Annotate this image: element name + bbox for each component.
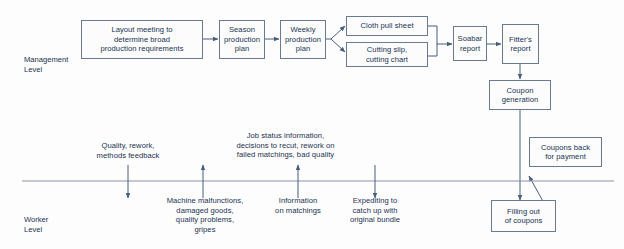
node-weekly-production-plan[interactable]: Weekly production plan bbox=[280, 20, 326, 59]
node-cutting-slip-chart-label: Cutting slip, cutting chart bbox=[366, 45, 408, 64]
node-filling-out-of-coupons[interactable]: Filling out of coupons bbox=[491, 200, 556, 232]
flow-label-quality-rework: Quality, rework, methods feedback bbox=[68, 141, 188, 160]
connector-cutting-slip-merge bbox=[428, 44, 437, 56]
flow-label-job-status-information: Job status information, decisions to rec… bbox=[198, 131, 373, 160]
node-cloth-pull-sheet-label: Cloth pull sheet bbox=[360, 21, 413, 30]
node-coupon-generation-label: Coupon generation bbox=[502, 86, 538, 105]
node-soabar-report[interactable]: Soabar report bbox=[453, 26, 487, 61]
node-weekly-production-plan-label: Weekly production plan bbox=[285, 25, 321, 53]
connector-branch-to-cutting-slip bbox=[331, 39, 345, 52]
node-coupons-back-for-payment-label: Coupons back for payment bbox=[541, 143, 590, 162]
flow-label-expediting: Expediting to catch up with original bun… bbox=[333, 196, 417, 225]
node-layout-meeting-label: Layout meeting to determine broad produc… bbox=[100, 25, 183, 53]
node-fitters-report[interactable]: Fitter's report bbox=[502, 24, 539, 64]
node-filling-out-of-coupons-label: Filling out of coupons bbox=[505, 207, 543, 226]
connector-cloth-pull-merge bbox=[428, 26, 437, 44]
node-coupon-generation[interactable]: Coupon generation bbox=[489, 80, 551, 110]
node-soabar-report-label: Soabar report bbox=[458, 34, 483, 53]
node-layout-meeting[interactable]: Layout meeting to determine broad produc… bbox=[81, 20, 203, 59]
node-cutting-slip-chart[interactable]: Cutting slip, cutting chart bbox=[346, 42, 428, 67]
node-season-production-plan[interactable]: Season production plan bbox=[219, 20, 265, 59]
node-fitters-report-label: Fitter's report bbox=[509, 35, 532, 54]
information-flow-diagram: Layout meeting to determine broad produc… bbox=[0, 0, 624, 249]
flow-label-machine-malfunctions: Machine malfunctions, damaged goods, qua… bbox=[149, 196, 261, 234]
node-coupons-back-for-payment[interactable]: Coupons back for payment bbox=[529, 137, 602, 167]
lane-label-worker: Worker Level bbox=[24, 215, 104, 234]
node-cloth-pull-sheet[interactable]: Cloth pull sheet bbox=[346, 16, 428, 36]
lane-label-management: Management Level bbox=[24, 55, 104, 74]
connector-branch-to-cloth-pull-sheet bbox=[331, 26, 345, 39]
node-season-production-plan-label: Season production plan bbox=[224, 25, 260, 53]
flow-label-information-on-matchings: Information on matchings bbox=[259, 196, 337, 215]
